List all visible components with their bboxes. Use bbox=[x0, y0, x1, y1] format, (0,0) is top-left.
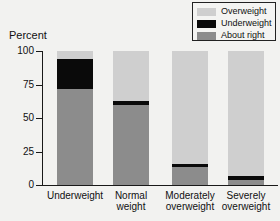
y-tick-mark bbox=[36, 51, 42, 52]
legend-swatch-overweight bbox=[197, 8, 216, 16]
legend-item-about-right: About right bbox=[197, 30, 272, 41]
x-category-label: Normal weight bbox=[99, 190, 163, 212]
bar-segment-underweight bbox=[228, 176, 264, 180]
bar-segment-overweight bbox=[172, 51, 208, 164]
x-category-label: Severely overweight bbox=[214, 190, 278, 212]
bar-segment-about-right bbox=[113, 105, 149, 185]
bar-segment-overweight bbox=[228, 51, 264, 176]
bar-segment-overweight bbox=[113, 51, 149, 101]
plot-area: 0255075100 bbox=[42, 51, 276, 185]
bar-segment-underweight bbox=[57, 59, 93, 88]
legend-swatch-about-right bbox=[197, 32, 216, 40]
chart-legend: Overweight Underweight About right bbox=[192, 2, 276, 41]
y-tick-mark bbox=[36, 152, 42, 153]
y-tick-mark bbox=[36, 118, 42, 119]
bar-stack bbox=[113, 51, 149, 185]
x-category-label: Underweight bbox=[43, 190, 107, 201]
y-tick-label: 75 bbox=[23, 80, 34, 90]
stacked-bar-chart: Overweight Underweight About right Perce… bbox=[0, 0, 280, 221]
y-tick-label: 0 bbox=[28, 180, 34, 190]
y-tick-label: 50 bbox=[23, 113, 34, 123]
legend-item-overweight: Overweight bbox=[197, 6, 272, 17]
legend-label-underweight: Underweight bbox=[221, 19, 272, 28]
x-category-label: Moderately overweight bbox=[158, 190, 222, 212]
bar-segment-underweight bbox=[113, 101, 149, 105]
y-tick-mark bbox=[36, 185, 42, 186]
legend-item-underweight: Underweight bbox=[197, 18, 272, 29]
bar-segment-underweight bbox=[172, 164, 208, 167]
legend-swatch-underweight bbox=[197, 20, 216, 28]
bar-segment-about-right bbox=[172, 167, 208, 185]
y-tick-label: 25 bbox=[23, 147, 34, 157]
y-axis-title: Percent bbox=[9, 29, 47, 41]
y-tick-label: 100 bbox=[17, 46, 34, 56]
x-axis-line bbox=[42, 185, 278, 186]
legend-label-overweight: Overweight bbox=[221, 7, 267, 16]
bar-segment-about-right bbox=[228, 180, 264, 185]
bar-segment-about-right bbox=[57, 89, 93, 185]
bar-stack bbox=[172, 51, 208, 185]
bar-segment-overweight bbox=[57, 51, 93, 59]
y-tick-mark bbox=[36, 85, 42, 86]
legend-label-about-right: About right bbox=[221, 31, 265, 40]
bar-stack bbox=[57, 51, 93, 185]
bar-stack bbox=[228, 51, 264, 185]
